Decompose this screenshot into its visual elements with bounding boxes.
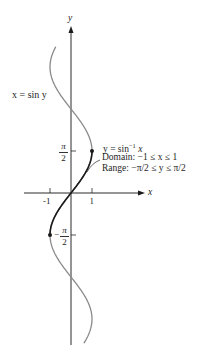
y-tick-den: 2 (60, 237, 69, 247)
y-tick-num: π (59, 142, 68, 153)
y-axis-label: y (68, 13, 72, 24)
arcsin-domain-label: Domain: −1 ≤ x ≤ 1 (102, 152, 177, 163)
x-tick-label-neg1: -1 (43, 196, 51, 207)
graph-canvas (0, 0, 212, 363)
sin-curve-label: x = sin y (12, 89, 47, 100)
arcsin-range-label: Range: −π/2 ≤ y ≤ π/2 (102, 163, 186, 174)
arcsin-eq-sup: −1 (129, 142, 136, 149)
y-tick-sign-neg: − (54, 229, 59, 239)
x-axis-arrow-icon (138, 191, 145, 196)
y-tick-num: π (60, 226, 69, 237)
x-tick-label-1: 1 (90, 196, 95, 207)
y-tick-label-pi-half: π 2 (59, 142, 68, 163)
y-axis-arrow-icon (69, 26, 74, 33)
endpoint-dot-bottom (48, 233, 52, 237)
endpoint-dot-top (90, 149, 94, 153)
sin-curve-label-text: x = sin y (12, 89, 47, 100)
x-axis-label: x (148, 187, 152, 198)
y-tick-label-neg-pi-half: π 2 (60, 226, 69, 247)
y-tick-den: 2 (59, 153, 68, 163)
